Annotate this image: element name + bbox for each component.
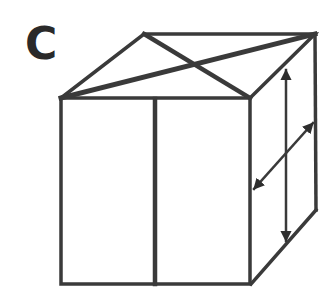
cube-diagram [0, 0, 331, 292]
diagonal-double-arrow [254, 123, 313, 189]
cube-figure: C [0, 0, 331, 292]
top-diagonal-short [144, 34, 250, 98]
right-face-bottom-edge [251, 210, 316, 284]
right-face-back-edge [315, 34, 316, 210]
top-diagonal-long [61, 34, 315, 98]
